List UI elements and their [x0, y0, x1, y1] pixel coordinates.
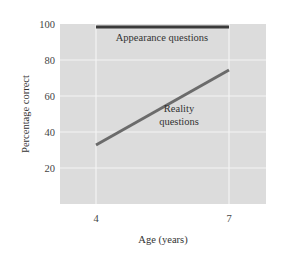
y-tick-40: 40 [45, 127, 56, 138]
plot-area [60, 24, 266, 204]
x-axis-ticks: 4 7 [93, 213, 231, 224]
svg-text:questions: questions [159, 116, 199, 127]
y-tick-20: 20 [45, 163, 56, 174]
x-tick-4: 4 [93, 213, 99, 224]
line-chart: 100 80 60 40 20 4 7 Age (years) Percenta… [0, 0, 287, 257]
y-tick-100: 100 [39, 19, 55, 30]
appearance-questions-annotation: Appearance questions [116, 32, 208, 43]
y-tick-60: 60 [45, 91, 56, 102]
y-axis-label: Percentage correct [20, 75, 31, 153]
y-axis-ticks: 100 80 60 40 20 [39, 19, 55, 174]
x-tick-7: 7 [226, 213, 231, 224]
y-tick-80: 80 [45, 55, 56, 66]
x-axis-label: Age (years) [138, 234, 188, 246]
svg-text:Reality: Reality [164, 103, 195, 114]
